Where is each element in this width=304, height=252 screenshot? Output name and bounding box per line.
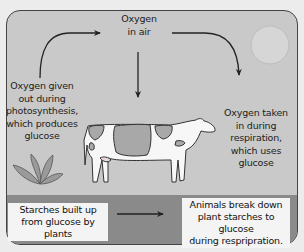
label-oxygen-in-air: Oxygen in air bbox=[117, 13, 161, 38]
cow-icon bbox=[84, 119, 215, 182]
label-photosynthesis: Oxygen given out during photosynthesis, … bbox=[0, 80, 84, 143]
sun-icon bbox=[251, 26, 289, 64]
plant-icon bbox=[13, 154, 63, 184]
box-starches: Starches built up from glucose by plants bbox=[8, 203, 108, 241]
arrow-icon bbox=[40, 33, 100, 78]
label-respiration: Oxygen taken in during respiration, whic… bbox=[209, 107, 303, 170]
box-animals: Animals break down plant starches to glu… bbox=[182, 198, 290, 248]
arrow-icon bbox=[172, 33, 239, 75]
diagram-canvas: Oxygen in air Oxygen given out during ph… bbox=[0, 0, 304, 252]
